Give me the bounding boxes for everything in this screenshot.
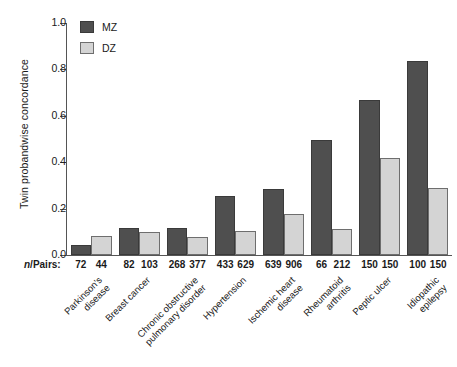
y-tick-label: 0.4 [22, 155, 66, 167]
npairs-group: 82103 [119, 259, 160, 270]
legend-item-mz: MZ [80, 18, 117, 35]
bar-dz [91, 236, 112, 255]
npairs-dz: 212 [332, 259, 353, 270]
plot-area [67, 23, 452, 255]
legend-label: MZ [102, 21, 117, 33]
bar-mz [359, 100, 380, 255]
y-tick-label: 0.8 [22, 62, 66, 74]
bar-dz [284, 214, 305, 255]
npairs-group: 66212 [311, 259, 352, 270]
npairs-group: 268377 [167, 259, 208, 270]
npairs-dz: 377 [187, 259, 208, 270]
npairs-dz: 150 [428, 259, 449, 270]
y-tick-label: 1.0 [22, 16, 66, 28]
bar-mz [71, 245, 92, 255]
x-axis-line [66, 255, 452, 256]
npairs-dz: 44 [91, 259, 112, 270]
bar-group [263, 23, 304, 255]
y-tick: 0.4 [0, 162, 66, 163]
bar-dz [332, 229, 353, 255]
npairs-dz: 629 [235, 259, 256, 270]
legend-swatch-dz [80, 42, 94, 54]
bar-dz [235, 231, 256, 255]
npairs-mz: 150 [359, 259, 380, 270]
bar-mz [167, 228, 188, 255]
y-tick: 0.2 [0, 209, 66, 210]
bar-group [167, 23, 208, 255]
npairs-row: n/Pairs: 7244821032683774336296399066621… [0, 259, 457, 273]
npairs-group: 7244 [71, 259, 112, 270]
x-category-label: Idiopathic epilepsy [349, 275, 449, 367]
y-tick: 0.8 [0, 69, 66, 70]
npairs-mz: 72 [71, 259, 92, 270]
bar-group [359, 23, 400, 255]
legend: MZDZ [80, 18, 117, 60]
bar-dz [380, 158, 401, 255]
x-axis-category-labels: Parkinson's diseaseBreast cancerChronic … [0, 273, 457, 367]
npairs-label: n/Pairs: [24, 259, 61, 270]
bar-mz [215, 196, 236, 255]
npairs-dz: 906 [284, 259, 305, 270]
npairs-group: 100150 [407, 259, 448, 270]
npairs-group: 639906 [263, 259, 304, 270]
bar-group [215, 23, 256, 255]
bar-mz [263, 189, 284, 255]
npairs-group: 150150 [359, 259, 400, 270]
x-category-label: Parkinson's disease [12, 275, 112, 367]
npairs-mz: 66 [311, 259, 332, 270]
y-tick: 0.0 [0, 255, 66, 256]
y-tick: 1.0 [0, 23, 66, 24]
y-axis-title: Twin probandwise concordance [18, 14, 30, 254]
legend-label: DZ [102, 42, 116, 54]
y-tick: 0.6 [0, 116, 66, 117]
y-tick-label: 0.6 [22, 109, 66, 121]
bar-mz [311, 140, 332, 255]
npairs-dz: 150 [380, 259, 401, 270]
bar-group [311, 23, 352, 255]
bar-chart: Twin probandwise concordance 0.00.20.40.… [0, 0, 457, 367]
npairs-mz: 268 [167, 259, 188, 270]
bar-group [407, 23, 448, 255]
legend-swatch-mz [80, 21, 94, 33]
npairs-mz: 100 [407, 259, 428, 270]
y-tick-label: 0.2 [22, 202, 66, 214]
bar-mz [407, 61, 428, 255]
bar-dz [187, 237, 208, 255]
bar-mz [119, 228, 140, 255]
npairs-dz: 103 [139, 259, 160, 270]
npairs-mz: 433 [215, 259, 236, 270]
npairs-n-italic: n [24, 259, 30, 270]
npairs-group: 433629 [215, 259, 256, 270]
bar-dz [139, 232, 160, 255]
legend-item-dz: DZ [80, 39, 117, 56]
bar-group [119, 23, 160, 255]
bar-dz [428, 188, 449, 255]
npairs-mz: 82 [119, 259, 140, 270]
npairs-mz: 639 [263, 259, 284, 270]
